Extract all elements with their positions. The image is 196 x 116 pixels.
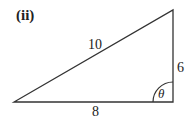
angle-theta-label: θ [158,86,165,101]
triangle [14,10,173,102]
right-triangle-diagram: (ii) θ 10 6 8 [0,0,196,116]
vertical-side-label: 6 [177,60,184,75]
hypotenuse-label: 10 [88,37,102,52]
base-label: 8 [92,104,99,116]
part-label: (ii) [16,7,34,24]
